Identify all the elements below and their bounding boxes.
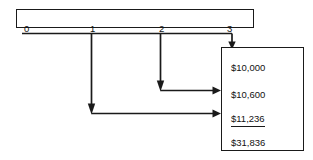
value-row-total: $31,836 (231, 137, 265, 149)
arrowhead-period-2-right (213, 87, 222, 95)
value-row: $10,000 (231, 62, 265, 74)
diagram-canvas: 0 1 2 3 $10,000 $10,600 $11,236 $31,836 (0, 0, 313, 160)
value-row: $10,600 (231, 89, 265, 101)
future-values-box: $10,000 $10,600 $11,236 $31,836 (221, 47, 304, 151)
value-row: $11,236 (231, 113, 265, 127)
arrowhead-period-1-right (213, 110, 222, 118)
